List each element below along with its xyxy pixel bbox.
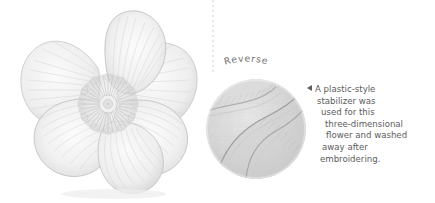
left-triangle-icon	[307, 85, 312, 91]
caption-line: away after	[307, 142, 433, 154]
caption-line: stabilizer was	[307, 96, 433, 108]
reverse-label-textpath: Reverse	[223, 53, 270, 67]
caption-line: A plastic-style	[307, 84, 433, 96]
embroidered-flower-image	[2, 4, 214, 202]
caption-line: flower and washed	[307, 130, 433, 142]
reverse-side-photo	[206, 79, 306, 179]
caption-line-text: A plastic-style	[315, 84, 375, 94]
caption-line: used for this	[307, 107, 433, 119]
caption-line: embroidering.	[307, 154, 433, 166]
reverse-label-text: Reverse	[223, 53, 270, 67]
caption-block: A plastic-style stabilizer was used for …	[307, 84, 433, 165]
caption-line: three-dimensional	[307, 119, 433, 131]
reverse-label: Reverse	[206, 52, 310, 82]
figure-canvas: Reverse	[0, 0, 435, 203]
